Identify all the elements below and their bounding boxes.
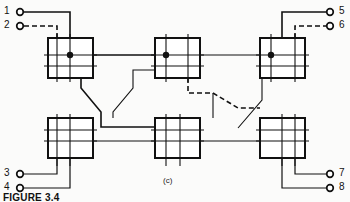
terminal-label-5: 5 [339,5,345,16]
terminal-node-2[interactable] [17,23,24,30]
switching-network-figure [0,0,350,202]
figure-caption: FIGURE 3.4 [3,192,59,202]
terminal-node-8[interactable] [327,185,334,192]
switch-box-stage1-upper[interactable] [44,34,97,82]
switch-box-stage3-lower[interactable] [256,114,309,166]
switch-box-stage3-upper[interactable] [256,34,309,82]
terminal-label-8: 8 [339,181,345,192]
terminal-node-6[interactable] [327,23,334,30]
terminal-label-2: 2 [4,19,10,30]
crosspoint-dot-stage2-upper [163,52,169,58]
switch-box-stage2-lower[interactable] [151,114,204,166]
terminal-node-5[interactable] [327,9,334,16]
subfigure-label: (c) [163,176,172,185]
terminal-node-1[interactable] [17,9,24,16]
terminal-label-6: 6 [339,19,345,30]
switch-box-stage1-lower[interactable] [44,114,97,166]
terminal-node-4[interactable] [17,185,24,192]
terminal-label-7: 7 [339,167,345,178]
switch-box-stage2-upper[interactable] [151,34,204,82]
terminal-label-1: 1 [4,5,10,16]
crosspoint-dot-stage3-upper [268,52,274,58]
terminal-node-3[interactable] [17,171,24,178]
terminal-label-4: 4 [4,181,10,192]
terminal-label-3: 3 [4,167,10,178]
terminal-node-7[interactable] [327,171,334,178]
figure-background [0,0,350,202]
crosspoint-dot-stage1-upper [67,52,73,58]
